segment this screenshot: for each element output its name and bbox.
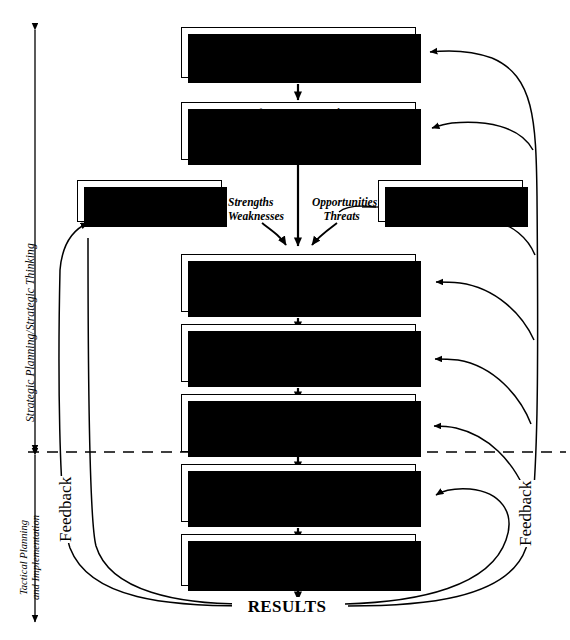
feedback-label-left: Feedback	[56, 476, 76, 543]
feedback-arrow-to-vision	[434, 426, 524, 488]
results-label: RESULTS	[232, 597, 342, 617]
box-implementation[interactable]: Implementation	[181, 534, 416, 586]
swot-strengths: Strengths	[228, 196, 273, 208]
box-generate-vision-line2: Organization of the Future	[218, 424, 379, 439]
box-tactical-planning-label: Tactical Planning	[240, 484, 356, 501]
bullet-item: Mission of Institution/Academic Unit	[196, 106, 386, 122]
phase-label-tactical: Tactical Planning and Implementation	[18, 515, 43, 600]
box-external-assessment[interactable]: External Assessment	[378, 180, 523, 222]
box-develop-and-assess-line1: Develop and Assess	[241, 267, 356, 282]
feedback-arrow-to-plan	[430, 51, 492, 58]
bullet-item: Key Performance Indicators (KPI)	[196, 139, 386, 155]
arrow-opportunities-threats	[312, 223, 337, 245]
swot-external-outputs: Opportunities Threats	[312, 196, 377, 223]
box-internal-assessment[interactable]: Internal Assessment	[77, 180, 222, 222]
box-plan-for-planning[interactable]: “Plan for Planning”	[181, 27, 416, 78]
diagram-canvas: “Plan for Planning” Mission of Instituti…	[0, 0, 570, 640]
box-develop-strategies[interactable]: Develop Strategies	[181, 324, 416, 382]
feedback-arrow-to-develop-assess	[436, 282, 534, 340]
box-tactical-planning[interactable]: Tactical Planning	[181, 464, 416, 522]
swot-internal-outputs: Strengths Weaknesses	[228, 196, 284, 223]
box-foundation-bullets[interactable]: Mission of Institution/Academic Unit Ass…	[181, 102, 416, 160]
phase-label-strategic: Strategic Planning/Strategic Thinking	[24, 243, 36, 422]
feedback-arrow-to-foundation	[432, 122, 533, 150]
box-develop-and-assess[interactable]: Develop and Assess Strategic Issues and …	[181, 254, 416, 312]
box-generate-vision[interactable]: Generate Vision of the Organization of t…	[181, 394, 416, 452]
arrow-strengths-weaknesses	[262, 223, 286, 245]
box-internal-assessment-line2: Assessment	[119, 201, 180, 215]
box-external-assessment-line1: External	[427, 186, 474, 200]
feedback-label-right: Feedback	[516, 480, 536, 547]
box-generate-vision-line1: Generate Vision of the	[232, 407, 365, 422]
box-develop-strategies-label: Develop Strategies	[237, 344, 360, 361]
swot-opportunities: Opportunities	[312, 196, 377, 208]
box-develop-and-assess-line2: Strategic Issues and Actions	[215, 284, 382, 299]
box-plan-for-planning-label: “Plan for Planning”	[224, 43, 373, 63]
box-internal-assessment-line1: Internal	[128, 186, 172, 200]
box-external-assessment-line2: Assessment	[420, 201, 481, 215]
phase-label-tactical-line1: Tactical Planning	[18, 520, 29, 595]
feedback-arrow-to-strategies	[435, 359, 531, 424]
phase-label-tactical-line2: and Implementation	[30, 515, 41, 600]
box-implementation-label: Implementation	[245, 551, 353, 568]
swot-weaknesses: Weaknesses	[228, 210, 284, 224]
swot-threats: Threats	[312, 210, 377, 224]
foundation-bullet-list: Mission of Institution/Academic Unit Ass…	[182, 106, 386, 155]
bullet-item: Assessment of Stakeholder Values	[196, 123, 386, 139]
